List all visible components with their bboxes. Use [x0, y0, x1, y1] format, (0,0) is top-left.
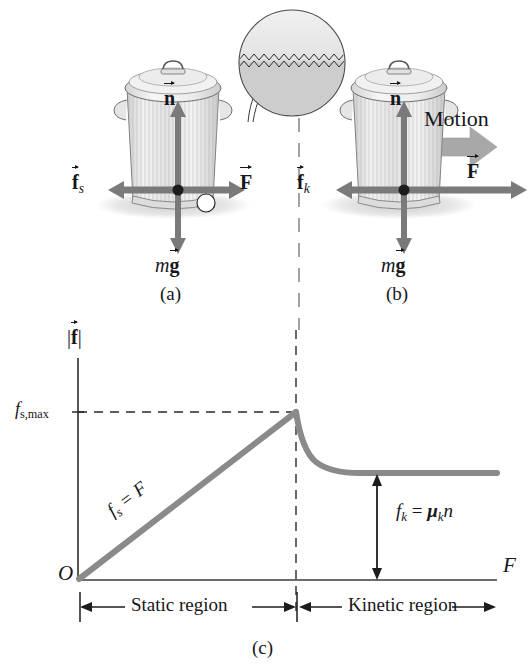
contact-point-circle [197, 194, 215, 212]
static-region-label: Static region [131, 595, 228, 614]
panel-c-caption: (c) [252, 638, 273, 657]
panels-a-b-illustration [0, 0, 531, 330]
y-axis-label: |f| [67, 327, 82, 347]
applied-force-label-b: F [467, 161, 479, 181]
center-of-mass-dot-b [399, 185, 410, 196]
origin-label: O [58, 563, 73, 584]
applied-force-label-a: F [240, 172, 252, 192]
center-of-mass-dot-a [173, 185, 184, 196]
panel-b-caption: (b) [386, 284, 408, 303]
friction-figure: n fs F mg (a) n Motion fk F mg (b) [0, 0, 531, 671]
normal-force-label-b: n [390, 88, 401, 108]
panel-b-graphic [321, 61, 527, 254]
kinetic-region-label: Kinetic region [348, 595, 457, 614]
weight-label-a: mg [155, 255, 179, 275]
weight-label-b: mg [381, 255, 405, 275]
static-friction-label-a: fs [72, 172, 84, 195]
kinetic-friction-label-b: fk [297, 172, 310, 195]
x-axis-label: F [503, 555, 516, 576]
kinetic-friction-equation-label: fk = μkn [396, 501, 453, 524]
surface-magnifier [239, 10, 345, 122]
motion-label: Motion [424, 108, 489, 130]
panel-a-caption: (a) [160, 284, 181, 303]
kinetic-friction-curve [296, 412, 497, 473]
fk-measure-arrow [372, 474, 382, 580]
y-tick-label-fsmax: fs,max [15, 400, 49, 421]
normal-force-label-a: n [164, 88, 175, 108]
